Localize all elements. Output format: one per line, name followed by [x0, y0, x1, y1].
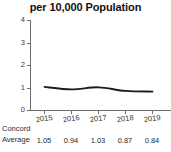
y-tick-label-1: 1	[21, 83, 25, 92]
y-tick-label-3: 3	[21, 38, 25, 47]
row-label-line-1: Concord	[2, 124, 32, 135]
x-tick-label-2016: 2016	[62, 113, 80, 124]
table-cell-2019: 0.84	[138, 135, 166, 146]
y-axis-tick-labels: 0 1 2 3 4	[21, 15, 25, 114]
row-label-line-2: Average	[2, 135, 32, 146]
table-value-row: 1.05 0.94 1.03 0.87 0.84	[30, 135, 171, 149]
x-tick-label-2017: 2017	[89, 113, 107, 124]
plot-background	[30, 20, 171, 110]
value-table: Concord Average 1.05 0.94 1.03 0.87 0.84	[0, 124, 171, 152]
y-tick-label-0: 0	[21, 105, 25, 114]
line-chart-plot: 0 1 2 3 4 2015 2016 2017 2018 2019	[0, 0, 171, 124]
y-tick-label-2: 2	[21, 60, 25, 69]
table-row-label: Concord Average	[2, 124, 32, 145]
y-tick-label-4: 4	[21, 15, 25, 24]
table-cell-2018: 0.87	[111, 135, 139, 146]
x-tick-label-2019: 2019	[143, 113, 161, 124]
x-axis-tick-labels: 2015 2016 2017 2018 2019	[35, 113, 161, 124]
x-tick-label-2018: 2018	[116, 113, 134, 124]
x-tick-label-2015: 2015	[35, 113, 53, 124]
table-cell-2017: 1.03	[84, 135, 112, 146]
table-cell-2016: 0.94	[57, 135, 85, 146]
table-cell-2015: 1.05	[30, 135, 58, 146]
y-axis-ticks	[27, 21, 31, 111]
chart-figure: per 10,000 Population 0 1 2 3 4 20	[0, 0, 171, 152]
